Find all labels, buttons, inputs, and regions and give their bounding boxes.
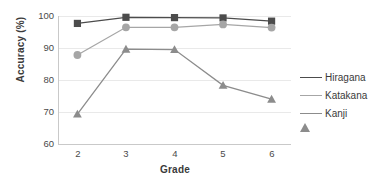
data-point-katakana-3	[122, 23, 130, 31]
legend-label: Hiragana	[322, 72, 366, 83]
x-tick-label: 2	[63, 148, 93, 159]
data-point-katakana-6	[268, 24, 276, 32]
data-point-hiragana-2	[74, 20, 81, 27]
data-point-kanji-5	[219, 81, 228, 89]
legend-marker-triangle-icon	[300, 106, 322, 120]
series-layer	[58, 16, 291, 145]
plot-area	[58, 16, 291, 145]
legend-marker-circle-icon	[300, 88, 322, 102]
data-point-katakana-5	[219, 20, 227, 28]
legend-item-katakana[interactable]: Katakana	[300, 86, 388, 104]
data-point-katakana-4	[171, 23, 179, 31]
y-tick-label: 80	[28, 75, 54, 85]
x-tick-label: 4	[160, 148, 190, 159]
x-tick-label: 3	[111, 148, 141, 159]
chart-figure: Accuracy (%) 100 90 80 70 60 2 3 4 5 6 G…	[0, 0, 389, 186]
legend-marker-square-icon	[300, 70, 322, 84]
data-point-katakana-2	[74, 51, 82, 59]
legend-item-kanji[interactable]: Kanji	[300, 104, 388, 122]
legend-label: Katakana	[322, 90, 367, 101]
x-tick-label: 6	[257, 148, 287, 159]
y-tick-label: 90	[28, 43, 54, 53]
legend-label: Kanji	[322, 108, 347, 119]
x-axis-title: Grade	[78, 164, 272, 175]
y-axis-tick-labels: 100 90 80 70 60	[24, 0, 54, 186]
data-point-hiragana-3	[122, 14, 129, 21]
data-point-hiragana-4	[171, 14, 178, 21]
series-line-kanji	[77, 49, 271, 114]
y-tick-label: 70	[28, 107, 54, 117]
y-tick-label: 100	[28, 11, 54, 21]
legend-item-hiragana[interactable]: Hiragana	[300, 68, 388, 86]
data-point-hiragana-5	[219, 14, 226, 21]
y-tick-label: 60	[28, 139, 54, 149]
x-tick-label: 5	[208, 148, 238, 159]
data-point-hiragana-6	[268, 18, 275, 25]
chart-legend: Hiragana Katakana Kanji	[300, 68, 388, 122]
